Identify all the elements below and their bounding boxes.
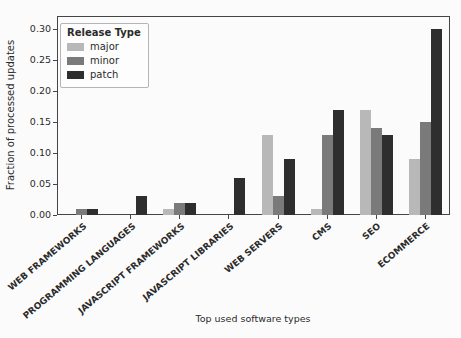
legend-swatch-patch <box>67 71 84 79</box>
legend-title: Release Type <box>67 27 141 38</box>
bar-major-6 <box>360 110 371 215</box>
legend-label-major: major <box>90 41 119 52</box>
y-tick-label: 0.30 <box>19 23 51 35</box>
bar-minor-4 <box>273 196 284 215</box>
legend-swatch-minor <box>67 57 84 65</box>
x-tick-mark <box>228 215 229 219</box>
y-tick-label: 0.10 <box>19 147 51 159</box>
x-tick-mark <box>81 215 82 219</box>
y-axis-label: Fraction of processed updates <box>5 40 16 190</box>
bar-patch-1 <box>136 196 147 215</box>
bar-minor-7 <box>420 122 431 215</box>
bar-minor-2 <box>174 203 185 215</box>
y-tick-mark <box>53 184 57 185</box>
y-tick-mark <box>53 91 57 92</box>
bar-major-4 <box>262 135 273 215</box>
y-tick-label: 0.25 <box>19 54 51 66</box>
x-tick-mark <box>376 215 377 219</box>
legend-label-patch: patch <box>90 69 118 80</box>
y-tick-mark <box>53 122 57 123</box>
legend-entries: majorminorpatch <box>67 41 141 80</box>
bar-major-5 <box>311 209 322 215</box>
x-tick-mark <box>327 215 328 219</box>
legend-label-minor: minor <box>90 55 119 66</box>
bar-patch-0 <box>87 209 98 215</box>
bar-patch-7 <box>431 29 442 215</box>
bar-major-2 <box>163 209 174 215</box>
bar-minor-5 <box>322 135 333 215</box>
legend: Release Type majorminorpatch <box>60 23 149 88</box>
legend-swatch-major <box>67 43 84 51</box>
figure: Fraction of processed updates Top used s… <box>0 0 461 338</box>
x-tick-mark <box>425 215 426 219</box>
y-tick-mark <box>53 153 57 154</box>
bar-patch-5 <box>333 110 344 215</box>
y-tick-mark <box>53 215 57 216</box>
bar-patch-2 <box>185 203 196 215</box>
y-tick-label: 0.00 <box>19 209 51 221</box>
y-tick-label: 0.20 <box>19 85 51 97</box>
legend-entry-patch: patch <box>67 69 141 80</box>
x-tick-mark <box>179 215 180 219</box>
legend-entry-minor: minor <box>67 55 141 66</box>
bar-minor-6 <box>371 128 382 215</box>
x-tick-mark <box>278 215 279 219</box>
y-tick-mark <box>53 60 57 61</box>
bar-patch-3 <box>234 178 245 215</box>
bar-patch-4 <box>284 159 295 215</box>
y-tick-label: 0.05 <box>19 178 51 190</box>
bar-major-7 <box>409 159 420 215</box>
x-tick-mark <box>130 215 131 219</box>
y-tick-mark <box>53 29 57 30</box>
legend-entry-major: major <box>67 41 141 52</box>
bar-patch-6 <box>382 135 393 215</box>
y-tick-label: 0.15 <box>19 116 51 128</box>
bar-minor-0 <box>76 209 87 215</box>
